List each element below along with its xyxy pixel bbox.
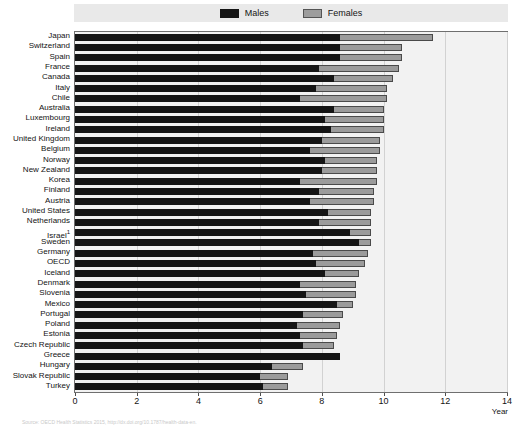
bar-segment-males	[75, 126, 331, 133]
legend-label-females: Females	[328, 9, 363, 18]
legend-entry-males: Males	[220, 9, 269, 18]
bar-row	[75, 291, 507, 298]
bar-row	[75, 363, 507, 370]
bar-segment-males	[75, 373, 260, 380]
bar-row	[75, 322, 507, 329]
bar-row	[75, 126, 507, 133]
category-label: Poland	[0, 320, 70, 328]
bar-segment-males	[75, 291, 306, 298]
source-footnote: Source: OECD Health Statistics 2015, htt…	[22, 419, 197, 425]
bar-segment-males	[75, 54, 340, 61]
bar-row	[75, 198, 507, 205]
category-label: Italy	[0, 84, 70, 92]
x-axis-tick-label: 2	[134, 397, 139, 406]
bar-row	[75, 270, 507, 277]
x-axis-title: Year	[492, 408, 508, 416]
category-label: United States	[0, 207, 70, 215]
bar-segment-males	[75, 188, 319, 195]
bar-row	[75, 85, 507, 92]
bar-segment-males	[75, 95, 300, 102]
bar-segment-males	[75, 75, 334, 82]
bar-row	[75, 239, 507, 246]
bar-segment-males	[75, 167, 322, 174]
category-label: Slovak Republic	[0, 372, 70, 380]
bar-segment-males	[75, 311, 303, 318]
category-label: Hungary	[0, 361, 70, 369]
x-axis-tick-label: 10	[379, 397, 389, 406]
category-axis-labels: JapanSwitzerlandSpainFranceCanadaItalyCh…	[0, 31, 70, 393]
bar-row	[75, 75, 507, 82]
category-label: United Kingdom	[0, 135, 70, 143]
bar-segment-males	[75, 353, 340, 360]
category-label: Mexico	[0, 300, 70, 308]
bar-row	[75, 116, 507, 123]
bar-row	[75, 301, 507, 308]
category-label: Turkey	[0, 382, 70, 390]
x-axis: Year 02468101214	[74, 393, 508, 409]
bar-segment-males	[75, 322, 297, 329]
bar-segment-males	[75, 34, 340, 41]
category-label: Czech Republic	[0, 341, 70, 349]
bar-row	[75, 383, 507, 390]
category-label: Netherlands	[0, 217, 70, 225]
legend-swatch-males-icon	[220, 9, 239, 18]
bar-row	[75, 188, 507, 195]
bar-row	[75, 137, 507, 144]
category-label: Denmark	[0, 279, 70, 287]
bar-row	[75, 373, 507, 380]
bar-segment-males	[75, 137, 322, 144]
bar-segment-males	[75, 301, 337, 308]
bar-segment-males	[75, 209, 328, 216]
bar-row	[75, 353, 507, 360]
bar-row	[75, 157, 507, 164]
bar-row	[75, 281, 507, 288]
bar-segment-males	[75, 44, 340, 51]
category-label: Chile	[0, 94, 70, 102]
bar-segment-males	[75, 239, 359, 246]
x-axis-tick-label: 0	[72, 397, 77, 406]
bar-segment-males	[75, 65, 319, 72]
category-label: Luxembourg	[0, 114, 70, 122]
bar-row	[75, 219, 507, 226]
bar-row	[75, 209, 507, 216]
bar-segment-males	[75, 229, 350, 236]
bar-segment-males	[75, 270, 325, 277]
category-label: Switzerland	[0, 42, 70, 50]
bar-row	[75, 147, 507, 154]
category-label: Iceland	[0, 269, 70, 277]
bar-segment-males	[75, 281, 300, 288]
bar-rows	[75, 32, 507, 392]
bar-segment-males	[75, 85, 316, 92]
x-axis-tick-label: 4	[196, 397, 201, 406]
bar-segment-males	[75, 250, 313, 257]
category-label: Estonia	[0, 330, 70, 338]
chart-legend: Males Females	[74, 4, 508, 22]
bar-row	[75, 250, 507, 257]
category-label: Greece	[0, 351, 70, 359]
category-label: Sweden	[0, 238, 70, 246]
category-label: Spain	[0, 53, 70, 61]
bar-row	[75, 178, 507, 185]
category-label: Austria	[0, 197, 70, 205]
bar-row	[75, 311, 507, 318]
category-label: Portugal	[0, 310, 70, 318]
bar-row	[75, 342, 507, 349]
bar-segment-males	[75, 198, 310, 205]
category-label: Finland	[0, 186, 70, 194]
x-axis-tick-label: 6	[258, 397, 263, 406]
bar-segment-males	[75, 157, 325, 164]
category-label: New Zealand	[0, 166, 70, 174]
chart-plot-area	[74, 31, 508, 393]
bar-row	[75, 332, 507, 339]
bar-segment-males	[75, 332, 300, 339]
category-label: Germany	[0, 248, 70, 256]
category-label: Canada	[0, 73, 70, 81]
bar-segment-males	[75, 383, 263, 390]
legend-swatch-females-icon	[303, 9, 322, 18]
bar-segment-males	[75, 147, 310, 154]
bar-segment-males	[75, 106, 334, 113]
category-label: Australia	[0, 104, 70, 112]
bar-row	[75, 34, 507, 41]
bar-row	[75, 167, 507, 174]
bar-segment-males	[75, 342, 303, 349]
